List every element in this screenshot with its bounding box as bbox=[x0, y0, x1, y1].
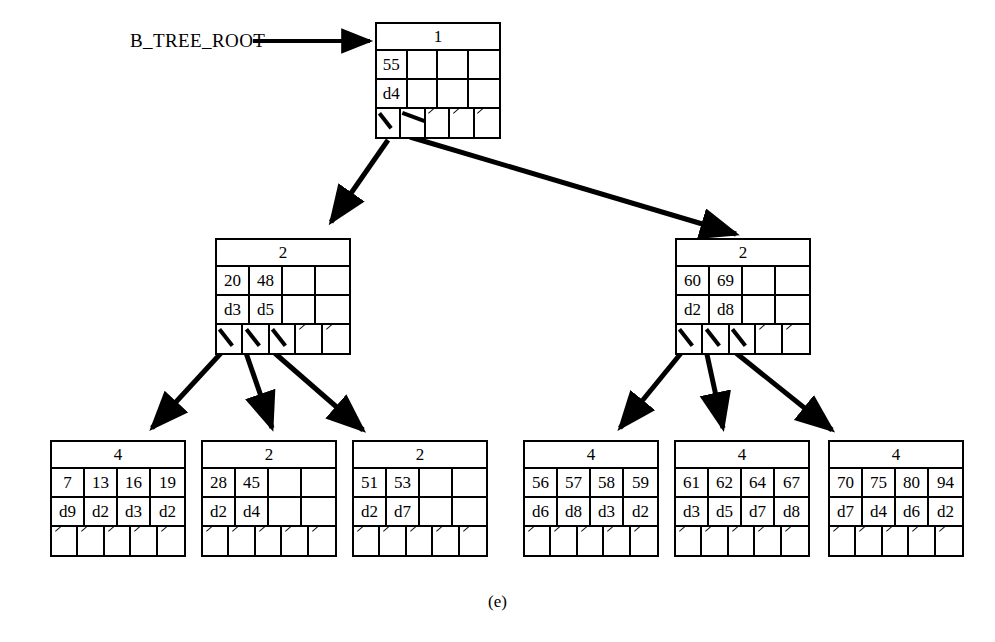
null-pointer-cell[interactable] bbox=[729, 527, 755, 555]
key-cell[interactable]: 57 bbox=[558, 469, 591, 496]
key-cell[interactable]: 61 bbox=[676, 469, 709, 496]
key-cell[interactable] bbox=[453, 469, 486, 496]
null-pointer-cell[interactable] bbox=[782, 527, 808, 555]
data-cell[interactable]: d3 bbox=[118, 498, 151, 525]
data-cell[interactable]: d5 bbox=[709, 498, 742, 525]
data-cell[interactable]: d7 bbox=[387, 498, 420, 525]
node-leaf-6[interactable]: 470758094d7d4d6d2 bbox=[828, 440, 964, 557]
key-cell[interactable] bbox=[316, 267, 349, 294]
node-leaf-4[interactable]: 456575859d6d8d3d2 bbox=[523, 440, 659, 557]
data-cell[interactable] bbox=[408, 80, 439, 107]
data-cell[interactable] bbox=[776, 296, 809, 323]
key-cell[interactable]: 55 bbox=[377, 51, 408, 78]
data-cell[interactable] bbox=[302, 498, 335, 525]
null-pointer-cell[interactable] bbox=[407, 527, 433, 555]
child-pointer-cell[interactable] bbox=[270, 325, 296, 353]
key-cell[interactable] bbox=[269, 469, 302, 496]
node-leaf-1[interactable]: 47131619d9d2d3d2 bbox=[50, 440, 186, 557]
key-cell[interactable] bbox=[302, 469, 335, 496]
null-pointer-cell[interactable] bbox=[525, 527, 551, 555]
null-pointer-cell[interactable] bbox=[909, 527, 935, 555]
data-cell[interactable]: d3 bbox=[676, 498, 709, 525]
key-cell[interactable] bbox=[438, 51, 469, 78]
key-cell[interactable]: 67 bbox=[775, 469, 808, 496]
key-cell[interactable]: 75 bbox=[863, 469, 896, 496]
key-cell[interactable]: 7 bbox=[52, 469, 85, 496]
data-cell[interactable]: d2 bbox=[624, 498, 657, 525]
null-pointer-cell[interactable] bbox=[756, 325, 782, 353]
key-cell[interactable]: 53 bbox=[387, 469, 420, 496]
node-internal-right[interactable]: 26069d2d8 bbox=[675, 238, 811, 355]
child-pointer-cell[interactable] bbox=[377, 109, 401, 137]
null-pointer-cell[interactable] bbox=[309, 527, 335, 555]
key-cell[interactable]: 16 bbox=[118, 469, 151, 496]
null-pointer-cell[interactable] bbox=[354, 527, 380, 555]
data-cell[interactable]: d4 bbox=[236, 498, 269, 525]
key-cell[interactable] bbox=[420, 469, 453, 496]
key-cell[interactable]: 51 bbox=[354, 469, 387, 496]
node-internal-left[interactable]: 22048d3d5 bbox=[215, 238, 351, 355]
null-pointer-cell[interactable] bbox=[282, 527, 308, 555]
node-leaf-5[interactable]: 461626467d3d5d7d8 bbox=[674, 440, 810, 557]
child-pointer-cell[interactable] bbox=[703, 325, 729, 353]
data-cell[interactable] bbox=[420, 498, 453, 525]
null-pointer-cell[interactable] bbox=[78, 527, 104, 555]
null-pointer-cell[interactable] bbox=[783, 325, 809, 353]
data-cell[interactable]: d8 bbox=[558, 498, 591, 525]
key-cell[interactable]: 28 bbox=[203, 469, 236, 496]
node-leaf-3[interactable]: 25153d2d7 bbox=[352, 440, 488, 557]
data-cell[interactable]: d2 bbox=[85, 498, 118, 525]
null-pointer-cell[interactable] bbox=[460, 527, 486, 555]
data-cell[interactable]: d5 bbox=[250, 296, 283, 323]
null-pointer-cell[interactable] bbox=[676, 527, 702, 555]
null-pointer-cell[interactable] bbox=[936, 527, 962, 555]
null-pointer-cell[interactable] bbox=[296, 325, 322, 353]
key-cell[interactable] bbox=[743, 267, 776, 294]
key-cell[interactable] bbox=[776, 267, 809, 294]
key-cell[interactable]: 69 bbox=[710, 267, 743, 294]
key-cell[interactable] bbox=[408, 51, 439, 78]
child-pointer-cell[interactable] bbox=[217, 325, 243, 353]
data-cell[interactable] bbox=[453, 498, 486, 525]
data-cell[interactable] bbox=[743, 296, 776, 323]
data-cell[interactable]: d8 bbox=[710, 296, 743, 323]
key-cell[interactable]: 70 bbox=[830, 469, 863, 496]
key-cell[interactable] bbox=[283, 267, 316, 294]
key-cell[interactable]: 60 bbox=[677, 267, 710, 294]
data-cell[interactable]: d3 bbox=[217, 296, 250, 323]
null-pointer-cell[interactable] bbox=[830, 527, 856, 555]
key-cell[interactable]: 19 bbox=[151, 469, 184, 496]
null-pointer-cell[interactable] bbox=[450, 109, 474, 137]
data-cell[interactable] bbox=[283, 296, 316, 323]
null-pointer-cell[interactable] bbox=[105, 527, 131, 555]
data-cell[interactable]: d8 bbox=[775, 498, 808, 525]
data-cell[interactable]: d3 bbox=[591, 498, 624, 525]
null-pointer-cell[interactable] bbox=[551, 527, 577, 555]
node-leaf-2[interactable]: 22845d2d4 bbox=[201, 440, 337, 557]
data-cell[interactable]: d2 bbox=[677, 296, 710, 323]
data-cell[interactable]: d2 bbox=[354, 498, 387, 525]
data-cell[interactable] bbox=[316, 296, 349, 323]
null-pointer-cell[interactable] bbox=[604, 527, 630, 555]
null-pointer-cell[interactable] bbox=[755, 527, 781, 555]
key-cell[interactable]: 59 bbox=[624, 469, 657, 496]
data-cell[interactable]: d2 bbox=[151, 498, 184, 525]
key-cell[interactable]: 56 bbox=[525, 469, 558, 496]
null-pointer-cell[interactable] bbox=[475, 109, 499, 137]
null-pointer-cell[interactable] bbox=[203, 527, 229, 555]
data-cell[interactable]: d4 bbox=[863, 498, 896, 525]
key-cell[interactable]: 58 bbox=[591, 469, 624, 496]
null-pointer-cell[interactable] bbox=[158, 527, 184, 555]
null-pointer-cell[interactable] bbox=[426, 109, 450, 137]
null-pointer-cell[interactable] bbox=[323, 325, 349, 353]
node-root[interactable]: 155d4 bbox=[375, 22, 501, 139]
null-pointer-cell[interactable] bbox=[256, 527, 282, 555]
data-cell[interactable]: d7 bbox=[742, 498, 775, 525]
key-cell[interactable]: 13 bbox=[85, 469, 118, 496]
null-pointer-cell[interactable] bbox=[433, 527, 459, 555]
child-pointer-cell[interactable] bbox=[730, 325, 756, 353]
key-cell[interactable]: 45 bbox=[236, 469, 269, 496]
child-pointer-cell[interactable] bbox=[401, 109, 425, 137]
null-pointer-cell[interactable] bbox=[52, 527, 78, 555]
null-pointer-cell[interactable] bbox=[131, 527, 157, 555]
